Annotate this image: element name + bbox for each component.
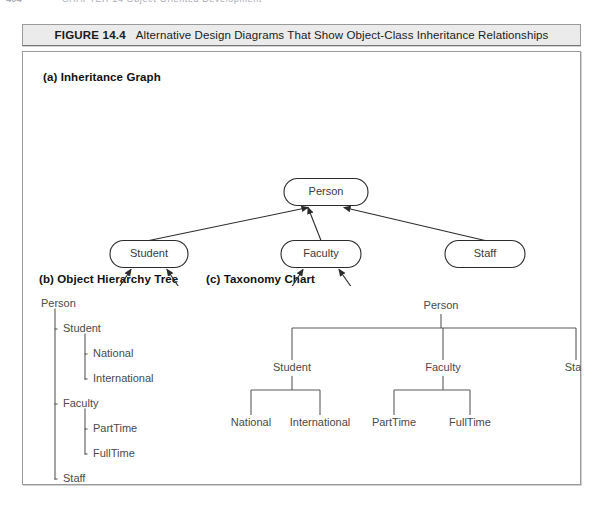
tree-node-label[interactable]: National bbox=[93, 347, 133, 359]
taxonomy-node-label[interactable]: International bbox=[290, 416, 351, 428]
tree-node-label[interactable]: Person bbox=[41, 297, 76, 309]
taxonomy-node-label[interactable]: Person bbox=[424, 299, 459, 311]
taxonomy-node-label[interactable]: PartTime bbox=[372, 416, 416, 428]
page-number: 404 bbox=[6, 0, 22, 4]
object-hierarchy-tree-labels: PersonStudentNationalInternationalFacult… bbox=[41, 297, 154, 484]
tree-node-label[interactable]: Staff bbox=[63, 472, 86, 484]
inheritance-edge bbox=[149, 208, 308, 241]
inheritance-edge bbox=[339, 270, 365, 287]
inheritance-edge bbox=[308, 208, 321, 241]
class-node-label: Faculty bbox=[303, 247, 339, 259]
taxonomy-node-label[interactable]: Faculty bbox=[425, 361, 461, 373]
taxonomy-node-label[interactable]: Student bbox=[273, 361, 311, 373]
class-node-staff[interactable]: Staff bbox=[445, 241, 525, 268]
class-node-person[interactable]: Person bbox=[284, 179, 368, 206]
taxonomy-node-label[interactable]: FullTime bbox=[449, 416, 491, 428]
class-node-label: Person bbox=[309, 185, 344, 197]
taxonomy-chart-diagram: PersonStudentFacultyStaffNationalInterna… bbox=[193, 290, 581, 450]
inheritance-edge bbox=[167, 270, 192, 287]
figure-body-frame: (a) Inheritance Graph (b) Object Hierarc… bbox=[22, 51, 581, 485]
class-node-faculty[interactable]: Faculty bbox=[281, 241, 361, 268]
class-node-student[interactable]: Student bbox=[110, 241, 188, 268]
figure-number-label: FIGURE 14.4 bbox=[55, 29, 126, 41]
class-node-label: Student bbox=[130, 247, 168, 259]
figure-caption-inner: FIGURE 14.4 Alternative Design Diagrams … bbox=[23, 25, 580, 45]
inheritance-edge bbox=[106, 270, 131, 287]
figure-caption-text: Alternative Design Diagrams That Show Ob… bbox=[136, 29, 549, 41]
taxonomy-chart-labels: PersonStudentFacultyStaffNationalInterna… bbox=[231, 299, 581, 428]
inheritance-edge bbox=[344, 208, 485, 241]
taxonomy-node-label[interactable]: National bbox=[231, 416, 271, 428]
figure-caption-bar: FIGURE 14.4 Alternative Design Diagrams … bbox=[22, 24, 581, 46]
taxonomy-node-label[interactable]: Staff bbox=[565, 361, 581, 373]
inheritance-graph-diagram: PersonStudentFacultyStaffNationalInterna… bbox=[23, 86, 582, 286]
tree-node-label[interactable]: International bbox=[93, 372, 154, 384]
object-hierarchy-tree-lines bbox=[55, 309, 87, 479]
tree-node-label[interactable]: PartTime bbox=[93, 422, 137, 434]
page-running-head: 404 CHAPTER 14 Object-Oriented Developme… bbox=[0, 0, 608, 6]
object-hierarchy-tree-diagram: PersonStudentNationalInternationalFacult… bbox=[31, 290, 211, 490]
class-node-label: Staff bbox=[474, 247, 497, 259]
tree-node-label[interactable]: Faculty bbox=[63, 397, 99, 409]
inheritance-edge bbox=[279, 270, 303, 287]
inheritance-graph-nodes: PersonStudentFacultyStaffNationalInterna… bbox=[68, 179, 525, 287]
tree-node-label[interactable]: Student bbox=[63, 322, 101, 334]
tree-node-label[interactable]: FullTime bbox=[93, 447, 135, 459]
chapter-running-title: CHAPTER 14 Object-Oriented Development bbox=[62, 0, 262, 4]
panel-heading-inheritance-graph: (a) Inheritance Graph bbox=[43, 71, 161, 83]
